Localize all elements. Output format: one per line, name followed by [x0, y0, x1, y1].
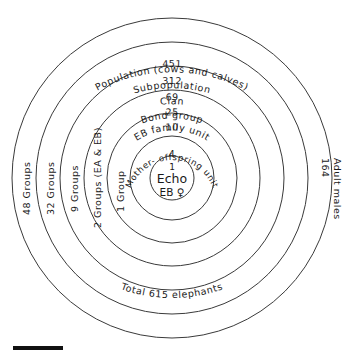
side-label-48-groups: 48 Groups — [21, 162, 32, 215]
side-label-1-group: 1 Group — [115, 171, 126, 213]
scale-bar — [13, 346, 63, 350]
side-label-2-groups: 2 Groups (EA & EB) — [92, 127, 103, 228]
center-name: Echo — [157, 171, 187, 186]
ring-label-bond-group: Bond group — [139, 109, 204, 125]
ring-label-clan: Clan — [160, 95, 185, 107]
ring-label-subpopulation: Subpopulation — [132, 79, 212, 95]
right-annotation-label: Adult males — [332, 158, 343, 220]
right-annotation-count: 164 — [320, 158, 331, 178]
center-code: EB ♀ — [160, 186, 185, 198]
side-label-9-groups: 9 Groups — [69, 165, 80, 212]
side-label-32-groups: 32 Groups — [45, 162, 56, 215]
concentric-hierarchy-diagram: 451 Population (cows and calves) 312 Sub… — [0, 0, 344, 356]
